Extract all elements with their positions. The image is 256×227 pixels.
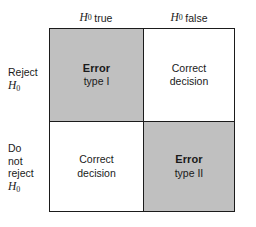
cell-subtitle: type II [175,167,204,181]
cell-correct-decision-bottom-left: Correct decision [50,122,144,211]
column-header-h0-false: H0false [143,10,235,26]
decision-matrix: Error type I Correct decision Correct de… [49,28,235,212]
cell-correct-decision-top-right: Correct decision [144,29,234,122]
row-label-line: Reject [8,66,48,79]
row-label-reject: Reject H0 [8,66,48,95]
row-label-line: reject [8,167,48,180]
cell-title: Error [175,153,202,167]
column-header-h0-true: H0true [49,10,143,26]
row-label-symbol: H0 [8,180,48,196]
row-label-symbol: H0 [8,79,48,95]
h0-subscript: 0 [16,83,20,92]
cell-type-ii-error: Error type II [144,122,234,211]
cell-line: Correct [79,153,113,167]
row-label-do-not-reject: Do not reject H0 [8,142,48,196]
cell-line: decision [170,75,209,89]
column-header-word: false [185,13,207,24]
cell-line: Correct [172,62,206,76]
h0-symbol: H [80,12,88,24]
h0-symbol: H [171,12,179,24]
cell-subtitle: type I [84,75,110,89]
cell-title: Error [83,62,110,76]
row-label-line: Do [8,142,48,155]
cell-line: decision [77,167,116,181]
h0-subscript: 0 [179,14,183,22]
column-headers: H0true H0false [49,10,235,26]
cell-type-i-error: Error type I [50,29,144,122]
h0-subscript: 0 [16,184,20,193]
row-label-line: not [8,155,48,168]
column-header-word: true [94,13,112,24]
h0-subscript: 0 [88,14,92,22]
